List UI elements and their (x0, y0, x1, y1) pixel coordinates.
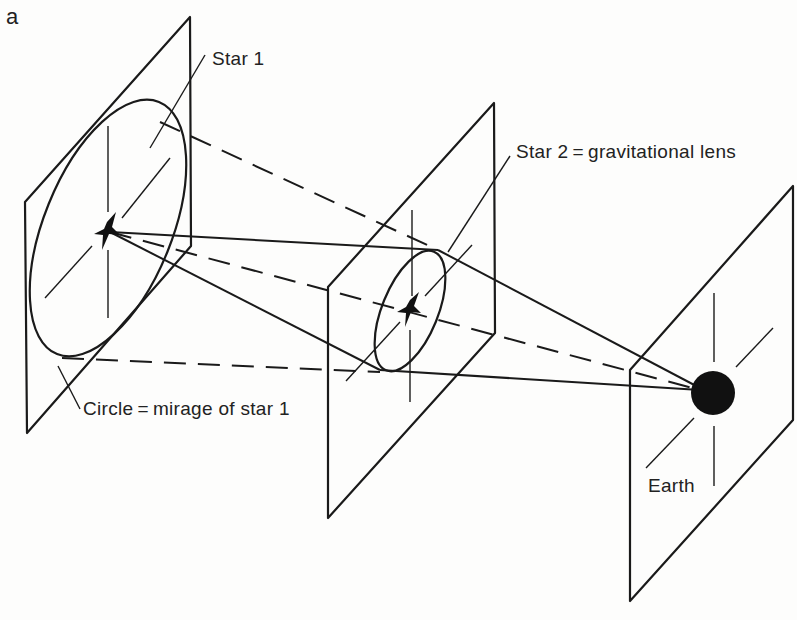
star2-icon (397, 292, 421, 327)
earth-icon (691, 371, 735, 415)
label-circle: Circle = mirage of star 1 (83, 398, 290, 420)
star1-icon (94, 212, 120, 250)
label-star1: Star 1 (212, 48, 265, 70)
label-earth: Earth (648, 475, 695, 497)
label-star2: Star 2 = gravitational lens (516, 141, 736, 163)
lensing-diagram (0, 0, 797, 620)
